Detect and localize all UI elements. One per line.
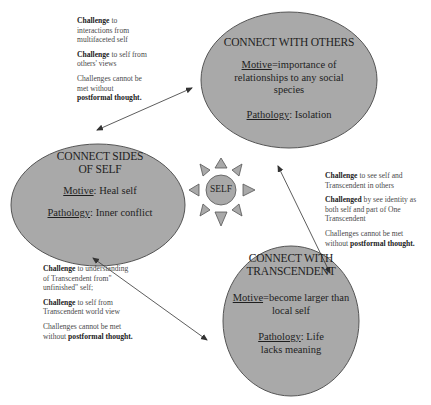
pathology-text: : Isolation	[289, 109, 331, 120]
transcendent-motive: Motive=become larger than local self	[225, 292, 357, 317]
note-challenge-3: Challenges cannot be met without postfor…	[43, 322, 135, 341]
pathology-label: Pathology	[247, 109, 290, 120]
self-motive: Motive: Heal self	[20, 185, 180, 198]
self-pathology: Pathology: Inner conflict	[20, 207, 180, 220]
note-challenge-2: Challenged by see identity as both self …	[325, 195, 421, 224]
motive-label: Motive	[242, 59, 272, 70]
note-self-others: Challenge to interactions from multiface…	[77, 16, 147, 108]
self-text: CONNECT SIDES OF SELF Motive: Heal self …	[20, 150, 180, 219]
pathology-text: : Inner conflict	[90, 207, 152, 218]
self-title-2: OF SELF	[20, 163, 180, 176]
motive-text: : Heal self	[94, 185, 137, 196]
note-challenge-2: Challenge to self from Transcendent worl…	[43, 298, 135, 317]
transcendent-title-1: CONNECT WITH	[225, 252, 357, 265]
self-title-1: CONNECT SIDES	[20, 150, 180, 163]
note-challenge-3: Challenges cannot be met without postfor…	[325, 229, 421, 248]
others-text: CONNECT WITH OTHERS Motive=importance of…	[208, 36, 370, 121]
note-challenge-2: Challenge to self from others' views	[77, 50, 147, 69]
note-others-transcendent: Challenge to see self and Transcendent i…	[325, 171, 421, 253]
transcendent-text: CONNECT WITH TRANSCENDENT Motive=become …	[225, 252, 357, 356]
others-motive: Motive=importance of relationships to an…	[208, 59, 370, 97]
note-challenge-1: Challenge to see self and Transcendent i…	[325, 171, 421, 190]
others-title: CONNECT WITH OTHERS	[208, 36, 370, 49]
self-label: SELF	[206, 184, 236, 194]
motive-label: Motive	[63, 185, 93, 196]
note-challenge-1: Challenge to understanding of Transcende…	[43, 264, 135, 293]
transcendent-pathology: Pathology: Life lacks meaning	[225, 331, 357, 356]
transcendent-title-2: TRANSCENDENT	[225, 265, 357, 278]
motive-text: =become larger than local self	[263, 292, 349, 316]
note-self-transcendent: Challenge to understanding of Transcende…	[43, 264, 135, 346]
pathology-label: Pathology	[258, 331, 301, 342]
pathology-label: Pathology	[48, 207, 91, 218]
others-pathology: Pathology: Isolation	[208, 109, 370, 122]
motive-label: Motive	[233, 292, 263, 303]
note-challenge-3: Challenges cannot be met without postfor…	[77, 74, 147, 103]
note-challenge-1: Challenge to interactions from multiface…	[77, 16, 147, 45]
